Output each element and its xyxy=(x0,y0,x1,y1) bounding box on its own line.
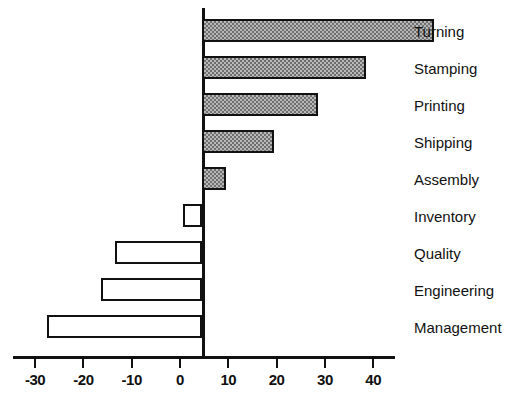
category-label-stamping: Stamping xyxy=(414,59,477,76)
category-label-assembly: Assembly xyxy=(414,170,479,187)
plot-area: -30-20-10010203040 xyxy=(0,0,410,360)
bar-quality xyxy=(115,241,202,264)
category-label-turning: Turning xyxy=(414,22,464,39)
bar-stamping xyxy=(202,56,366,79)
axis-tick xyxy=(276,359,278,368)
bar-printing xyxy=(202,93,318,116)
bar-turning xyxy=(202,19,434,42)
category-label-quality: Quality xyxy=(414,244,461,261)
axis-tick xyxy=(372,359,374,368)
value-axis-line xyxy=(13,356,395,359)
axis-tick-label: -20 xyxy=(73,371,93,388)
axis-tick xyxy=(82,359,84,368)
category-label-shipping: Shipping xyxy=(414,133,472,150)
axis-tick-label: 10 xyxy=(220,371,236,388)
bar-assembly xyxy=(202,167,226,190)
axis-tick-label: -10 xyxy=(122,371,142,388)
bar-engineering xyxy=(101,278,202,301)
axis-tick-label: 30 xyxy=(317,371,333,388)
category-label-printing: Printing xyxy=(414,96,465,113)
category-label-engineering: Engineering xyxy=(414,281,494,298)
category-label-management: Management xyxy=(414,318,502,335)
axis-tick xyxy=(179,359,181,368)
axis-tick xyxy=(131,359,133,368)
bar-shipping xyxy=(202,130,274,153)
axis-tick xyxy=(34,359,36,368)
axis-tick xyxy=(227,359,229,368)
bar-inventory xyxy=(183,204,202,227)
axis-tick-label: 20 xyxy=(269,371,285,388)
axis-tick-label: 0 xyxy=(176,371,184,388)
bar-management xyxy=(47,315,202,338)
axis-tick xyxy=(324,359,326,368)
bar-chart: -30-20-10010203040 TurningStampingPrinti… xyxy=(0,0,515,408)
axis-tick-label: -30 xyxy=(25,371,45,388)
axis-tick-label: 40 xyxy=(365,371,381,388)
category-label-inventory: Inventory xyxy=(414,207,476,224)
